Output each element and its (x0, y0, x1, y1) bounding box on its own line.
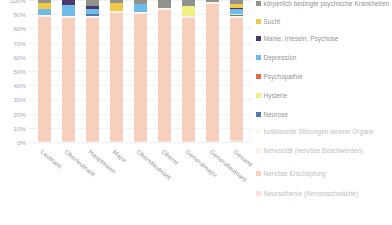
bar-column[interactable] (128, 0, 152, 142)
x-axis-label-cell: Leutnant (32, 142, 56, 225)
bar-segment[interactable] (62, 5, 75, 16)
legend-label: Psychopathie (264, 73, 303, 81)
bar-segment[interactable] (134, 14, 147, 140)
legend-item[interactable]: funktionelle Störungen innerer Organe (256, 128, 392, 136)
x-axis-label-cell: Hauptmann (80, 142, 104, 225)
chart-legend: körperlich bedingte psychische Krankheit… (256, 0, 392, 200)
plot-area: 100%90%80%70%60%50%40%30%20%10%0% Leutna… (0, 0, 252, 225)
stacked-bar[interactable] (158, 0, 171, 142)
legend-item[interactable]: Depression (256, 54, 392, 62)
legend-label: Nervöse Erschöpfung (264, 170, 326, 178)
legend-swatch-icon (256, 112, 261, 117)
stacked-bar[interactable] (110, 0, 123, 142)
stacked-bar[interactable] (230, 0, 243, 142)
stacked-bar[interactable] (38, 0, 51, 142)
legend-swatch-icon (256, 1, 261, 6)
chart-root: 100%90%80%70%60%50%40%30%20%10%0% Leutna… (0, 0, 392, 225)
y-axis-tick: 70% (14, 39, 27, 46)
legend-swatch-icon (256, 148, 261, 153)
legend-item[interactable]: Nervöse Erschöpfung (256, 170, 392, 178)
legend-label: Nervosität (nervöse Beschwerden) (264, 147, 364, 155)
legend-swatch-icon (256, 74, 261, 79)
legend-swatch-icon (256, 55, 261, 60)
bar-column[interactable] (225, 0, 249, 142)
bar-column[interactable] (32, 0, 56, 142)
stacked-bar[interactable] (62, 0, 75, 142)
legend-swatch-icon (256, 129, 261, 134)
y-axis-tick: 0% (17, 139, 26, 146)
legend-label: Manie, Irresein, Psychose (264, 35, 339, 43)
bar-segment[interactable] (230, 18, 243, 140)
legend-item[interactable]: Psychopathie (256, 73, 392, 81)
legend-swatch-icon (256, 93, 261, 98)
bar-column[interactable] (104, 0, 128, 142)
y-axis: 100%90%80%70%60%50%40%30%20%10%0% (0, 0, 28, 142)
legend-item[interactable]: Nervosität (nervöse Beschwerden) (256, 147, 392, 155)
bar-segment[interactable] (62, 18, 75, 140)
legend-label: Sucht (264, 18, 281, 26)
bar-column[interactable] (80, 0, 104, 142)
y-axis-tick: 40% (14, 82, 27, 89)
y-axis-tick: 20% (14, 110, 27, 117)
bar-segment[interactable] (158, 0, 171, 8)
legend-swatch-icon (256, 191, 261, 196)
bar-column[interactable] (177, 0, 201, 142)
legend-label: Hysterie (264, 92, 288, 100)
legend-label: Depression (264, 54, 297, 62)
x-axis-label-cell: Generalleutnant (201, 142, 225, 225)
stacked-bar[interactable] (206, 0, 219, 142)
bar-segment[interactable] (110, 3, 123, 11)
legend-item[interactable]: Neurasthenie (Nervenschwäche) (256, 190, 392, 198)
legend-swatch-icon (256, 36, 261, 41)
bar-segment[interactable] (86, 18, 99, 141)
x-axis-labels: LeutnantOberleutnantHauptmannMajorOberst… (28, 142, 252, 225)
bar-segment[interactable] (182, 18, 195, 141)
grid-area (28, 0, 252, 142)
x-axis-label: Gesamt (232, 148, 254, 168)
x-axis-label-cell: Oberleutnant (56, 142, 80, 225)
x-axis-label-cell: Generalmajor (177, 142, 201, 225)
bar-segment[interactable] (38, 17, 51, 141)
legend-item[interactable]: Hysterie (256, 92, 392, 100)
y-axis-tick: 30% (14, 96, 27, 103)
y-axis-tick: 60% (14, 53, 27, 60)
legend-swatch-icon (256, 171, 261, 176)
y-axis-tick: 100% (10, 0, 26, 4)
bar-column[interactable] (56, 0, 80, 142)
legend-item[interactable]: körperlich bedingte psychische Krankheit… (256, 0, 392, 8)
y-axis-tick: 10% (14, 124, 27, 131)
bar-segment[interactable] (110, 13, 123, 141)
legend-label: Neurose (264, 111, 289, 119)
y-axis-tick: 50% (14, 68, 27, 75)
bar-segment[interactable] (206, 4, 219, 140)
stacked-bar[interactable] (134, 0, 147, 142)
legend-label: körperlich bedingte psychische Krankheit… (264, 0, 390, 8)
y-axis-tick: 80% (14, 25, 27, 32)
legend-item[interactable]: Sucht (256, 18, 392, 26)
bar-segment[interactable] (134, 4, 147, 12)
bar-column[interactable] (201, 0, 225, 142)
bar-column[interactable] (153, 0, 177, 142)
legend-label: Neurasthenie (Nervenschwäche) (264, 190, 359, 198)
x-axis-label-cell: Major (104, 142, 128, 225)
x-axis-label-cell: Gesamt (225, 142, 249, 225)
x-axis-label-cell: Oberstleutnant (128, 142, 152, 225)
x-axis-label: Major (112, 148, 129, 164)
bar-segment[interactable] (182, 6, 195, 16)
bar-series-container (28, 0, 252, 142)
x-axis-label-cell: Oberst (153, 142, 177, 225)
y-axis-tick: 90% (14, 11, 27, 18)
legend-swatch-icon (256, 19, 261, 24)
stacked-bar[interactable] (182, 0, 195, 142)
stacked-bar[interactable] (86, 0, 99, 142)
legend-item[interactable]: Neurose (256, 111, 392, 119)
legend-label: funktionelle Störungen innerer Organe (264, 128, 374, 136)
bar-segment[interactable] (158, 10, 171, 141)
legend-item[interactable]: Manie, Irresein, Psychose (256, 35, 392, 43)
